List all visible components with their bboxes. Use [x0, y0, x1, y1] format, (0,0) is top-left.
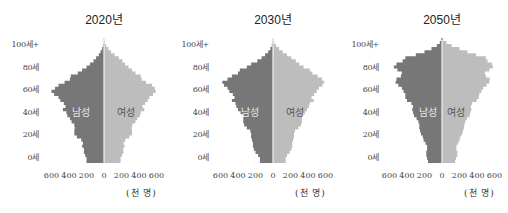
x-axis-tick-label: 400: [61, 171, 76, 180]
x-axis-tick-label: 0: [439, 171, 444, 180]
x-axis-tick-label: 600: [44, 171, 59, 180]
male-label: 남성: [72, 104, 90, 119]
x-axis-tick-label: 0: [270, 171, 275, 180]
x-axis-tick-label: 0: [101, 171, 106, 180]
pyramid-chart-2020: 2020년100세+80세60세40세20세0세남성여성600400200020…: [0, 0, 170, 213]
x-axis-tick-label: 600: [382, 171, 397, 180]
male-label: 남성: [241, 104, 259, 119]
pyramid-chart-2030: 2030년100세+80세60세40세20세0세남성여성600400200020…: [170, 0, 340, 213]
male-bars: [222, 38, 273, 163]
x-axis-tick-label: 400: [131, 171, 146, 180]
pyramid-chart-2050: 2050년100세+80세60세40세20세0세남성여성600400200020…: [340, 0, 508, 213]
x-axis-tick-label: 200: [79, 171, 94, 180]
x-axis-tick-label: 600: [318, 171, 333, 180]
male-bars: [394, 38, 442, 163]
x-axis-tick-label: 600: [213, 171, 228, 180]
female-bars: [104, 38, 156, 163]
female-label: 여성: [286, 104, 304, 119]
unit-label: (천 명): [126, 186, 157, 199]
x-axis-tick-label: 400: [300, 171, 315, 180]
x-axis-tick-label: 200: [248, 171, 263, 180]
female-label: 여성: [117, 104, 135, 119]
x-axis-tick-label: 200: [452, 171, 467, 180]
male-label: 남성: [419, 104, 437, 119]
x-axis-tick-label: 600: [487, 171, 502, 180]
unit-label: (천 명): [464, 186, 495, 199]
x-axis-tick-label: 400: [399, 171, 414, 180]
x-axis-tick-label: 400: [230, 171, 245, 180]
x-axis-tick-label: 200: [114, 171, 129, 180]
female-bars: [442, 38, 493, 163]
female-label: 여성: [447, 104, 465, 119]
female-bars: [273, 38, 324, 163]
male-bars: [52, 38, 105, 163]
x-axis-tick-label: 400: [469, 171, 484, 180]
x-axis-tick-label: 600: [149, 171, 164, 180]
x-axis-tick-label: 200: [283, 171, 298, 180]
unit-label: (천 명): [295, 186, 326, 199]
x-axis-tick-label: 200: [417, 171, 432, 180]
